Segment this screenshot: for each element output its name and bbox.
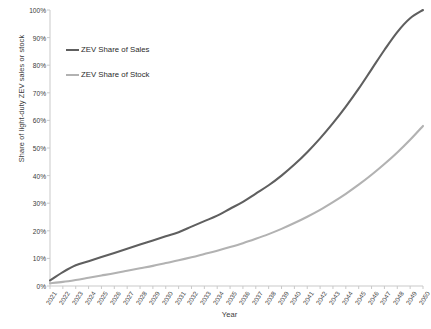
- legend-swatch-stock: [66, 74, 79, 76]
- legend-item-zev-share-of-stock: ZEV Share of Stock: [66, 69, 236, 81]
- x-axis-title-text: Year: [194, 310, 237, 319]
- legend-label-sales: ZEV Share of Sales: [81, 46, 149, 54]
- chart-legend: ZEV Share of Sales ZEV Share of Stock: [66, 44, 236, 94]
- x-axis-title: Year: [0, 310, 431, 319]
- legend-label-stock: ZEV Share of Stock: [81, 71, 149, 79]
- legend-swatch-sales: [66, 49, 79, 51]
- legend-item-zev-share-of-sales: ZEV Share of Sales: [66, 44, 236, 56]
- chart-container: 0%10%20%30%40%50%60%70%80%90%100% 202120…: [0, 0, 431, 329]
- y-axis-title: Share of light-duty ZEV sales or stock: [17, 0, 26, 209]
